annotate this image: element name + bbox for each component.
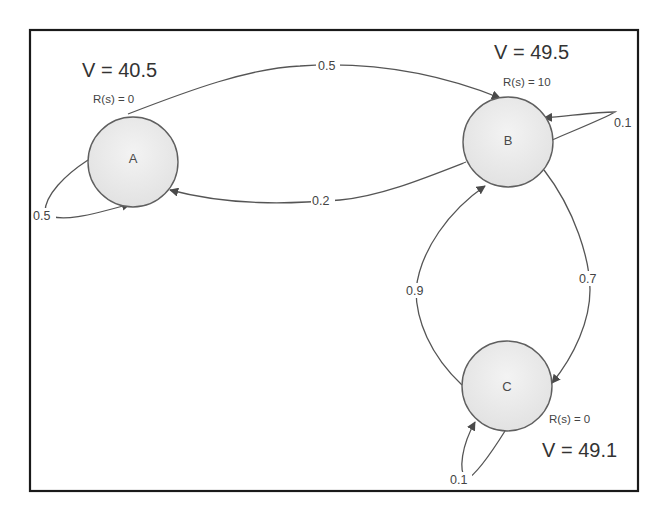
node-b-reward: R(s) = 10 (503, 76, 551, 88)
svg-text:0.5: 0.5 (318, 59, 335, 73)
node-c-value: V = 49.1 (542, 439, 617, 461)
node-a-value: V = 40.5 (82, 59, 157, 81)
svg-text:0.9: 0.9 (406, 284, 423, 298)
node-c-reward: R(s) = 0 (549, 413, 590, 425)
edge-label-b-self-loop: 0.1 (613, 114, 635, 130)
mrp-diagram: 0.5 0.2 0.5 0.1 0.7 0.9 0.1 A B C V = 40… (0, 0, 672, 520)
node-c: C (462, 341, 552, 431)
node-a: A (88, 117, 178, 207)
svg-text:0.2: 0.2 (312, 194, 329, 208)
svg-text:0.1: 0.1 (614, 116, 631, 130)
node-a-label: A (129, 151, 138, 166)
node-c-label: C (502, 379, 511, 394)
svg-text:0.7: 0.7 (579, 272, 596, 286)
edge-label-c-to-b: 0.9 (404, 283, 428, 298)
svg-text:0.5: 0.5 (33, 209, 50, 223)
edge-label-b-to-a: 0.2 (311, 193, 335, 208)
edge-a-to-b (128, 65, 500, 114)
edge-label-c-self-loop: 0.1 (450, 472, 472, 487)
node-b-value: V = 49.5 (494, 41, 569, 63)
edge-label-a-to-b: 0.5 (316, 58, 340, 73)
node-a-reward: R(s) = 0 (93, 93, 134, 105)
node-b: B (463, 97, 553, 187)
edge-label-b-to-c: 0.7 (578, 271, 602, 286)
svg-text:0.1: 0.1 (450, 473, 467, 487)
edge-label-a-self-loop: 0.5 (32, 208, 56, 223)
edge-b-self-loop (544, 112, 615, 140)
node-b-label: B (504, 133, 513, 148)
